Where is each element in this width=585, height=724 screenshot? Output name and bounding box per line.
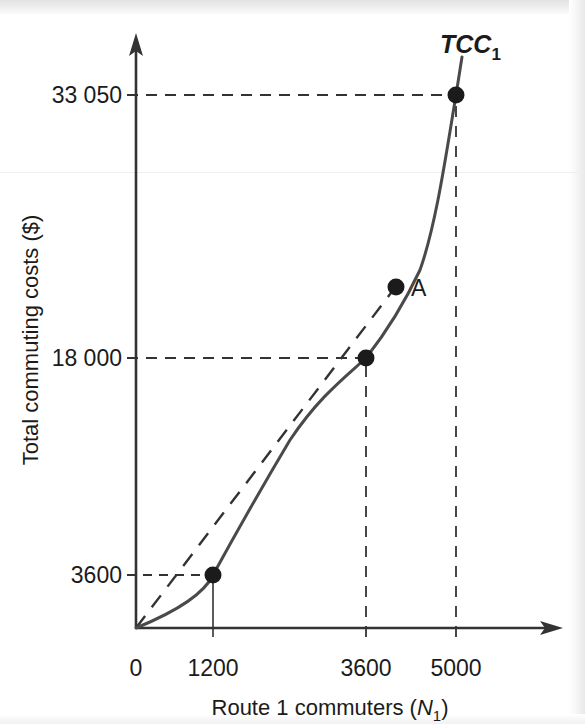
x-axis-title-subscript: 1	[433, 707, 441, 724]
axes-group	[129, 33, 563, 635]
data-point-a	[388, 279, 405, 296]
x-tick-label-3600: 3600	[340, 655, 391, 681]
y-tick-label-18000: 18 000	[52, 345, 122, 371]
y-tick-label-3600: 3600	[71, 562, 122, 588]
average-cost-ray	[136, 281, 400, 628]
data-point-1200-3600	[205, 567, 222, 584]
commuting-cost-chart: 33 050 18 000 3600 0 1200 3600 5000 A TC…	[0, 0, 585, 724]
annotation-point-a: A	[411, 275, 427, 301]
x-tick-label-0: 0	[130, 655, 143, 681]
y-axis-title: Total commuting costs ($)	[18, 215, 43, 466]
data-points-group	[205, 87, 465, 584]
y-tick-label-33050: 33 050	[52, 82, 122, 108]
y-tick-labels-group: 33 050 18 000 3600	[52, 82, 122, 588]
x-axis-title: Route 1 commuters (N1)	[212, 695, 449, 724]
x-axis-title-prefix: Route 1 commuters (	[212, 695, 418, 720]
x-tick-label-1200: 1200	[187, 655, 238, 681]
data-point-3600-18000	[358, 350, 375, 367]
guide-lines-group	[127, 95, 456, 637]
data-point-5000-33050	[448, 87, 465, 104]
figure-canvas: 33 050 18 000 3600 0 1200 3600 5000 A TC…	[0, 0, 585, 724]
x-tick-labels-group: 0 1200 3600 5000	[130, 655, 482, 681]
x-axis-title-variable: N	[417, 695, 433, 720]
curve-label-tcc1: TCC1	[440, 30, 501, 64]
x-axis-title-suffix: )	[441, 695, 448, 720]
curve-label-tcc1-subscript: 1	[491, 45, 500, 64]
curve-label-tcc1-text: TCC	[440, 30, 492, 58]
tcc1-curve	[136, 57, 462, 628]
x-tick-label-5000: 5000	[430, 655, 481, 681]
